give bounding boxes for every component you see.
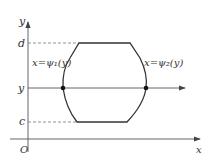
y-axis-label: y [18,15,26,28]
region-boundary [63,43,147,122]
x-axis-label: x [196,144,202,155]
c-label: c [19,115,25,128]
left-intersection-dot [61,86,66,91]
y-level-label: y [17,82,25,95]
origin-label: O [20,144,28,155]
d-label: d [18,37,25,50]
left-curve-label: x=ψ₁(y) [32,57,71,68]
region-diagram: y x O d y c x=ψ₁(y) x=ψ₂(y) [0,0,214,163]
right-curve-label: x=ψ₂(y) [144,57,183,68]
right-intersection-dot [144,86,149,91]
